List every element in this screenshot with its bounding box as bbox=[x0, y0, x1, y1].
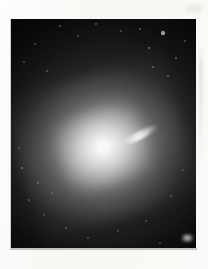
screenshot-root bbox=[0, 0, 208, 269]
margin-smudge-right bbox=[199, 46, 203, 164]
galaxy-plate-image bbox=[11, 19, 196, 248]
plate-edge-bottom bbox=[11, 248, 197, 250]
margin-smudge-top-right bbox=[186, 4, 202, 13]
plate-vignette bbox=[11, 19, 196, 248]
